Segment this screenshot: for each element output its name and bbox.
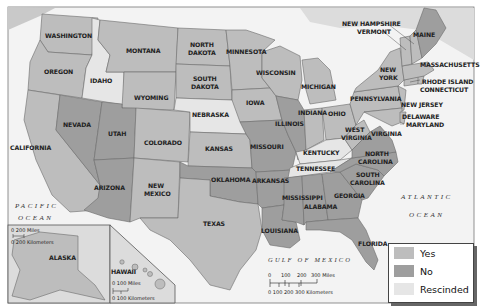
label-kentucky: KENTUCKY [303,149,340,156]
label-alabama: ALABAMA [304,203,338,210]
state-wyoming[interactable] [122,72,176,110]
state-montana[interactable] [98,20,178,72]
label-washington: WASHINGTON [45,32,92,39]
label-maryland: MARYLAND [406,121,444,128]
legend-swatch-rescinded [394,283,414,295]
label-texas: TEXAS [203,220,225,227]
label-pennsylvania: PENNSYLVANIA [350,95,402,102]
label-louisiana: LOUISIANA [261,227,298,234]
label-idaho: IDAHO [90,77,112,84]
label-west-virginia-2: VIRGINIA [341,134,372,141]
legend-item-yes: Yes [389,244,473,262]
legend-swatch-no [394,265,414,277]
label-north-carolina-1: NORTH [365,150,389,157]
label-georgia: GEORGIA [334,192,365,199]
label-tennessee: TENNESSEE [296,165,335,172]
label-wisconsin: WISCONSIN [256,69,296,76]
label-west-virginia-1: WEST [345,126,365,133]
label-california: CALIFORNIA [10,144,51,151]
label-south-carolina-2: CAROLINA [350,179,385,186]
svg-text:0 200 Miles: 0 200 Miles [11,227,40,233]
label-atlantic-1: ATLANTIC [400,193,453,201]
label-missouri: MISSOURI [250,143,284,150]
state-colorado[interactable] [134,108,190,162]
label-new-mexico-2: MEXICO [144,190,171,197]
label-montana: MONTANA [126,47,161,54]
label-pacific-1: PACIFIC [14,202,58,210]
legend-swatch-yes [394,247,414,259]
legend-label-no: No [420,266,433,277]
label-south-dakota-2: DAKOTA [191,83,219,90]
label-new-york-1: NEW [380,66,396,73]
svg-text:300 Miles: 300 Miles [311,272,335,278]
label-south-dakota-1: SOUTH [193,75,217,82]
label-gulf-of-mexico: GULF OF MEXICO [268,256,352,263]
label-delaware: DELAWARE [402,113,439,120]
label-maine: MAINE [413,31,435,38]
label-florida: FLORIDA [358,240,388,247]
label-new-york-2: YORK [378,74,398,81]
label-new-jersey: NEW JERSEY [401,101,443,109]
label-oklahoma: OKLAHOMA [211,176,251,183]
label-oregon: OREGON [44,68,73,75]
label-ohio: OHIO [328,110,346,117]
label-new-hampshire: NEW HAMPSHIRE [342,20,401,27]
label-minnesota: MINNESOTA [226,48,267,55]
label-north-carolina-2: CAROLINA [358,158,393,165]
label-arkansas: ARKANSAS [252,177,289,184]
label-iowa: IOWA [246,99,265,106]
label-kansas: KANSAS [205,145,233,152]
label-new-mexico-1: NEW [148,182,164,189]
label-nevada: NEVADA [63,121,91,128]
label-michigan: MICHIGAN [301,83,336,90]
label-pacific-2: OCEAN [18,214,53,222]
label-alaska: ALASKA [49,254,76,261]
label-illinois: ILLINOIS [275,120,304,127]
us-map: WASHINGTON OREGON CALIFORNIA IDAHO NEVAD… [0,0,480,308]
label-hawaii: HAWAII [111,268,136,275]
legend-label-yes: Yes [420,248,435,259]
label-atlantic-2: OCEAN [409,211,444,219]
legend-item-rescinded: Rescinded [389,280,473,298]
label-north-dakota-1: NORTH [190,41,214,48]
svg-text:0 200 Kilometers: 0 200 Kilometers [11,239,54,245]
svg-text:0: 0 [268,272,271,278]
label-south-carolina-1: SOUTH [356,171,380,178]
label-arizona: ARIZONA [94,184,125,191]
svg-text:0 100 Miles: 0 100 Miles [112,280,141,286]
label-massachusetts: MASSACHUSETTS [420,61,480,68]
label-connecticut: CONNECTICUT [420,86,469,93]
legend: Yes No Rescinded [388,243,474,303]
svg-text:0 100 Kilometers: 0 100 Kilometers [112,295,155,301]
svg-text:200: 200 [297,272,307,278]
label-north-dakota-2: DAKOTA [188,49,216,56]
label-utah: UTAH [108,130,126,137]
label-rhode-island: RHODE ISLAND [422,78,473,85]
legend-label-rescinded: Rescinded [420,284,469,295]
svg-text:100: 100 [281,272,291,278]
label-indiana: INDIANA [298,109,327,116]
label-nebraska: NEBRASKA [192,111,229,118]
label-virginia: VIRGINIA [371,130,402,137]
svg-text:0 100 200 300 Kilometers: 0 100 200 300 Kilometers [268,289,333,295]
label-colorado: COLORADO [144,139,182,146]
legend-item-no: No [389,262,473,280]
label-mississippi: MISSISSIPPI [282,194,323,201]
state-south-dakota[interactable] [176,64,232,100]
label-wyoming: WYOMING [134,94,168,101]
